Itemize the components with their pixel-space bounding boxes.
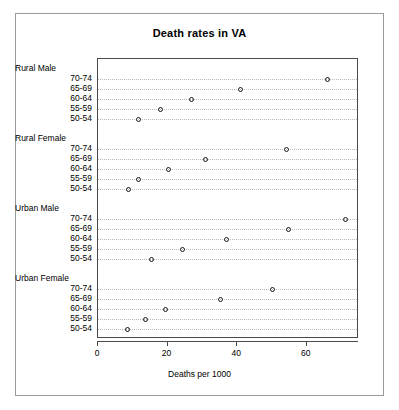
data-point: [136, 117, 141, 122]
grid-line: [98, 79, 357, 80]
data-point: [238, 87, 243, 92]
group-label: Urban Male: [0, 203, 92, 213]
data-point: [189, 97, 194, 102]
data-point: [325, 77, 330, 82]
grid-line: [98, 259, 357, 260]
x-axis-tick: [167, 341, 168, 346]
data-point: [149, 257, 154, 262]
data-point: [284, 147, 289, 152]
grid-line: [98, 229, 357, 230]
category-label: 70-74: [0, 213, 92, 223]
category-label-column: Rural Male70-7465-6960-6455-5950-54Rural…: [0, 58, 92, 338]
category-label: 55-59: [0, 103, 92, 113]
category-label: 65-69: [0, 293, 92, 303]
category-label: 60-64: [0, 93, 92, 103]
grid-line: [98, 299, 357, 300]
category-label: 55-59: [0, 243, 92, 253]
grid-line: [98, 149, 357, 150]
grid-line: [98, 189, 357, 190]
grid-line: [98, 249, 357, 250]
grid-line: [98, 99, 357, 100]
data-point: [180, 247, 185, 252]
category-label: 65-69: [0, 153, 92, 163]
chart-screenshot: Death rates in VA Rural Male70-7465-6960…: [0, 0, 399, 410]
category-label: 70-74: [0, 73, 92, 83]
grid-line: [98, 169, 357, 170]
category-label: 60-64: [0, 233, 92, 243]
x-axis-tick-label: 60: [301, 348, 310, 358]
plot-panel: [97, 58, 358, 338]
data-point: [343, 217, 348, 222]
data-point: [166, 167, 171, 172]
data-point: [218, 297, 223, 302]
grid-line: [98, 159, 357, 160]
grid-line: [98, 329, 357, 330]
x-axis-tick-label: 20: [162, 348, 171, 358]
category-label: 70-74: [0, 283, 92, 293]
category-label: 65-69: [0, 223, 92, 233]
x-axis-title: Deaths per 1000: [0, 369, 399, 379]
category-label: 50-54: [0, 113, 92, 123]
group-label: Rural Male: [0, 63, 92, 73]
category-label: 50-54: [0, 183, 92, 193]
data-point: [125, 327, 130, 332]
x-axis-line: [97, 341, 358, 342]
group-label: Urban Female: [0, 273, 92, 283]
category-label: 60-64: [0, 303, 92, 313]
data-point: [158, 107, 163, 112]
grid-line: [98, 109, 357, 110]
chart-title: Death rates in VA: [0, 27, 399, 39]
group-label: Rural Female: [0, 133, 92, 143]
category-label: 70-74: [0, 143, 92, 153]
grid-line: [98, 219, 357, 220]
category-label: 55-59: [0, 173, 92, 183]
category-label: 50-54: [0, 323, 92, 333]
data-point: [224, 237, 229, 242]
x-axis-tick: [97, 341, 98, 346]
data-point: [286, 227, 291, 232]
x-axis-tick: [236, 341, 237, 346]
data-point: [163, 307, 168, 312]
category-label: 65-69: [0, 83, 92, 93]
data-point: [136, 177, 141, 182]
grid-line: [98, 89, 357, 90]
grid-line: [98, 319, 357, 320]
category-label: 50-54: [0, 253, 92, 263]
data-point: [126, 187, 131, 192]
x-axis-tick-label: 40: [231, 348, 240, 358]
grid-line: [98, 289, 357, 290]
category-label: 55-59: [0, 313, 92, 323]
category-label: 60-64: [0, 163, 92, 173]
x-axis-tick: [306, 341, 307, 346]
data-point: [143, 317, 148, 322]
data-point: [270, 287, 275, 292]
grid-line: [98, 309, 357, 310]
data-point: [203, 157, 208, 162]
x-axis-tick-label: 0: [95, 348, 100, 358]
